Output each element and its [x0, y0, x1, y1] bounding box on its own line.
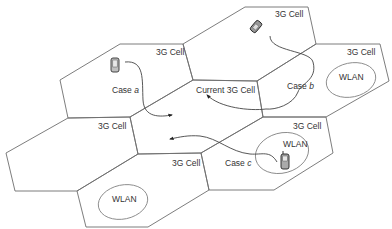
case-c-label: Case c: [225, 159, 251, 168]
cell-label-lower-right: 3G Cell: [293, 122, 321, 131]
cell-label-left: 3G Cell: [98, 122, 126, 131]
wlan-label-right: WLAN: [339, 73, 364, 82]
mobile-phone-icon: [249, 20, 262, 34]
cell-label-upper-left: 3G Cell: [156, 48, 184, 57]
cell-label-current: Current 3G Cell: [196, 86, 255, 95]
case-a-label: Case a: [112, 86, 139, 95]
case-b-path: [207, 36, 314, 110]
cell-label-top: 3G Cell: [275, 10, 303, 19]
cell-label-right: 3G Cell: [347, 48, 375, 57]
wlan-label-lower-right: WLAN: [283, 140, 308, 149]
case-b-label: Case b: [287, 82, 314, 91]
wlan-label-bottom: WLAN: [112, 195, 137, 204]
mobile-phone-icon: [111, 58, 119, 72]
handover-diagram: [0, 0, 392, 229]
mobile-phone-icon: [281, 151, 289, 169]
cell-label-lower-mid: 3G Cell: [172, 159, 200, 168]
